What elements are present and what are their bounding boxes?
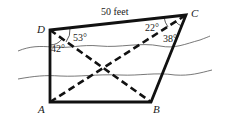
angle-label-C-upper: 22° xyxy=(145,22,159,33)
angle-label-D-lower: 42° xyxy=(51,43,65,54)
vertex-label-C: C xyxy=(191,7,199,19)
vertex-label-D: D xyxy=(36,23,45,35)
angle-label-D-upper: 53° xyxy=(73,32,87,43)
side-label-DC: 50 feet xyxy=(101,6,129,17)
quadrilateral-diagram: D C A B 50 feet 53° 42° 22° 38° xyxy=(0,0,228,119)
angle-arc-D-upper xyxy=(66,28,70,42)
diagram-canvas: D C A B 50 feet 53° 42° 22° 38° xyxy=(0,0,228,119)
vertex-label-B: B xyxy=(153,103,160,115)
angle-label-C-lower: 38° xyxy=(163,33,177,44)
vertex-label-A: A xyxy=(37,103,45,115)
diagonal-DB xyxy=(50,30,151,102)
river-bank-upper xyxy=(18,36,210,51)
